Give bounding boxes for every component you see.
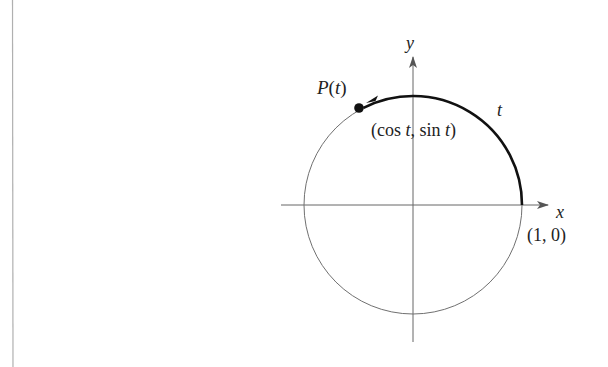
unit-circle-diagram: y x P(t) (cos t, sin t) t (1, 0) [0, 0, 608, 367]
point-name: P [316, 77, 329, 98]
point-p [354, 103, 364, 113]
arc-label: t [497, 100, 503, 120]
y-axis-label: y [404, 33, 414, 53]
point-label: P(t) [316, 77, 347, 99]
coords-close: ) [450, 120, 456, 141]
point-paren-close: ) [340, 77, 346, 99]
one-zero-label: (1, 0) [527, 225, 566, 246]
coords-open: (cos [371, 120, 406, 141]
coords-mid: , sin [411, 120, 446, 140]
x-axis-label: x [555, 202, 564, 222]
page-margin-line [13, 0, 14, 367]
coords-label: (cos t, sin t) [371, 120, 456, 141]
